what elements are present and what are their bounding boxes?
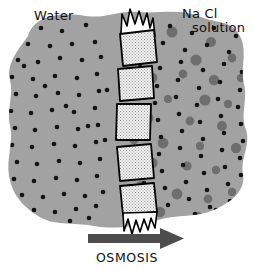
water-molecule-dot [161,41,166,46]
water-molecule-dot [43,84,48,89]
water-molecule-dot [156,118,161,123]
solute-particle [158,138,169,149]
label-nacl-solution: Na Clsolution [182,7,245,35]
water-molecule-dot [105,88,110,93]
water-molecule-dot [36,60,41,65]
water-molecule-dot [236,105,241,110]
water-molecule-dot [222,131,227,136]
water-molecule-dot [22,64,27,69]
membrane-segment [120,30,157,66]
water-molecule-dot [222,62,227,67]
membrane-segment [120,183,157,215]
water-molecule-dot [177,112,182,117]
water-molecule-dot [158,66,163,71]
water-molecule-dot [95,72,100,77]
water-molecule-dot [205,188,210,193]
water-molecule-dot [54,176,59,181]
water-molecule-dot [93,40,98,45]
solute-particle [164,95,172,103]
water-molecule-dot [48,44,53,49]
water-molecule-dot [208,205,213,210]
water-molecule-dot [80,58,85,63]
water-molecule-dot [218,80,223,85]
solute-particle [204,195,213,204]
water-molecule-dot [15,160,20,165]
water-molecule-dot [53,210,58,215]
water-molecule-dot [74,207,79,212]
semipermeable-membrane [116,9,157,234]
membrane-segment [118,66,154,101]
solute-particle [186,117,195,126]
water-molecule-dot [238,156,243,161]
water-molecule-dot [26,42,31,47]
solute-particle [237,74,245,82]
water-molecule-dot [86,124,91,129]
solute-particle [224,100,232,108]
water-molecule-dot [97,89,102,94]
water-molecule-dot [96,123,101,128]
solute-particle [196,142,204,150]
water-molecule-dot [157,152,162,157]
water-molecule-dot [201,68,206,73]
water-molecule-dot [13,126,18,131]
water-molecule-dot [53,74,58,79]
membrane-segment [116,104,151,140]
water-molecule-dot [16,58,21,63]
water-molecule-dot [199,154,204,159]
water-molecule-dot [201,137,206,142]
water-molecule-dot [10,75,15,80]
water-molecule-dot [181,163,186,168]
solute-particle [179,70,188,79]
water-molecule-dot [32,208,37,213]
solute-particle [172,189,183,200]
water-molecule-dot [239,173,244,178]
solute-particle [231,143,241,153]
water-molecule-dot [76,127,81,132]
water-molecule-dot [52,142,57,147]
water-molecule-dot [184,180,189,185]
solute-particle [228,188,236,196]
water-molecule-dot [180,129,185,134]
water-molecule-dot [95,174,100,179]
water-molecule-dot [101,190,106,195]
water-molecule-dot [227,50,232,55]
water-molecule-dot [35,162,40,167]
water-molecule-dot [47,221,52,226]
water-molecule-dot [219,114,224,119]
water-molecule-dot [70,42,75,47]
osmosis-arrow [88,228,184,249]
water-molecule-dot [84,23,89,28]
water-molecule-dot [60,29,65,34]
water-molecule-dot [98,157,103,162]
water-molecule-dot [223,165,228,170]
water-molecule-dot [83,194,88,199]
water-molecule-dot [178,146,183,151]
water-molecule-dot [78,161,83,166]
solute-particle [217,121,227,131]
water-molecule-dot [9,109,14,114]
water-molecule-dot [55,125,60,130]
water-molecule-dot [30,145,35,150]
water-molecule-dot [20,193,25,198]
water-molecule-dot [187,197,192,202]
solute-particle [190,54,201,65]
water-molecule-dot [93,106,98,111]
water-molecule-dot [103,138,108,143]
water-molecule-dot [32,179,37,184]
label-osmosis: OSMOSIS [0,250,254,265]
water-molecule-dot [12,177,17,182]
water-molecule-dot [77,93,82,98]
solute-particle [212,166,220,174]
water-molecule-dot [34,94,39,99]
water-molecule-dot [94,204,99,209]
water-molecule-dot [87,216,92,221]
water-molecule-dot [68,219,73,224]
water-molecule-dot [202,171,207,176]
water-molecule-dot [166,203,171,208]
osmosis-diagram [0,0,254,270]
water-molecule-dot [29,111,34,116]
water-molecule-dot [14,92,19,97]
water-molecule-dot [31,77,36,82]
membrane-segment [117,144,154,181]
water-molecule-dot [75,178,80,183]
